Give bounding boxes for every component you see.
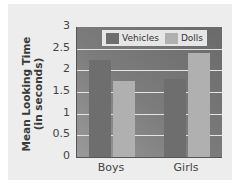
bar-boys-vehicles (89, 60, 111, 158)
y-axis-label-line-1: Mean Looking Time (20, 37, 32, 152)
y-tick-label: 1.5 (50, 85, 70, 97)
gridline (77, 49, 222, 50)
x-tick-label: Girls (166, 161, 206, 174)
legend-label: Vehicles (122, 33, 159, 43)
legend: VehiclesDolls (102, 30, 207, 46)
y-tick-label: 3 (50, 20, 70, 32)
legend-swatch (106, 33, 119, 44)
bar-boys-dolls (113, 81, 135, 157)
y-axis-label-line-2: (in seconds) (32, 37, 44, 152)
y-tick-label: 2.5 (50, 42, 70, 54)
bar-girls-vehicles (164, 79, 186, 157)
bar-girls-dolls (188, 53, 210, 157)
y-tick-label: 0.5 (50, 128, 70, 140)
legend-swatch (165, 33, 178, 44)
y-tick-label: 0 (50, 150, 70, 162)
legend-item-dolls: Dolls (165, 33, 203, 44)
plot-area: VehiclesDolls (76, 27, 222, 158)
x-tick-label: Boys (91, 161, 131, 174)
y-tick-label: 1 (50, 107, 70, 119)
y-tick-label: 2 (50, 63, 70, 75)
legend-item-vehicles: Vehicles (106, 33, 159, 44)
chart-card: Mean Looking Time (in seconds) 00.511.52… (8, 4, 232, 180)
y-axis-label: Mean Looking Time (in seconds) (12, 30, 52, 158)
legend-label: Dolls (181, 33, 203, 43)
